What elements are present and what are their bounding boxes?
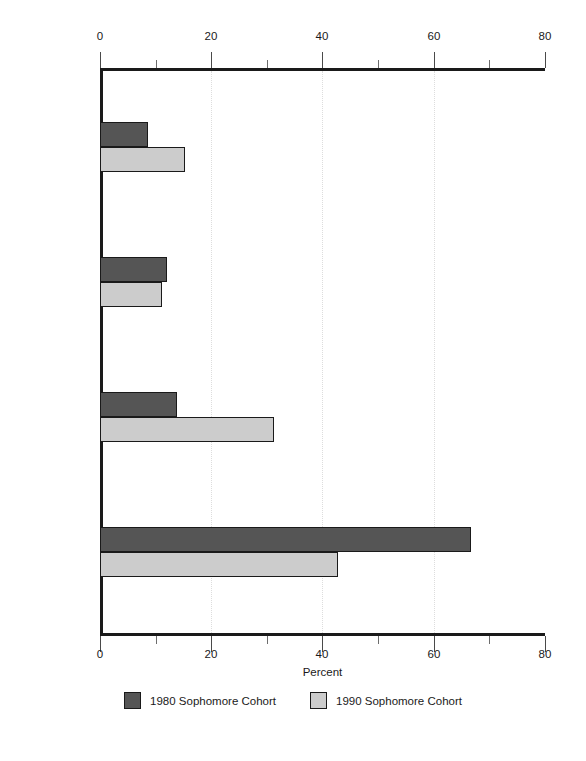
legend-entry-1990-sophomore-cohort: 1990 Sophomore Cohort bbox=[310, 692, 462, 709]
bar-graduated-1980 bbox=[100, 122, 148, 147]
legend-swatch-icon-1990 bbox=[310, 692, 327, 709]
legend-label-1980: 1980 Sophomore Cohort bbox=[150, 695, 276, 707]
top-tick-label-20: 20 bbox=[191, 30, 231, 43]
bar-received-alternative-credential-1980 bbox=[100, 257, 167, 282]
bottom-tick-minor-50 bbox=[378, 636, 379, 644]
top-tick-minor-30 bbox=[267, 60, 268, 68]
top-tick-label-80: 80 bbox=[525, 30, 565, 43]
bottom-tick-minor-10 bbox=[156, 636, 157, 644]
bottom-tick-label-0: 0 bbox=[80, 648, 120, 661]
bottom-tick-label-60: 60 bbox=[414, 648, 454, 661]
top-tick-label-0: 0 bbox=[80, 30, 120, 43]
bar-graduated-1990 bbox=[100, 147, 185, 172]
bottom-tick-label-40: 40 bbox=[302, 648, 342, 661]
bottom-tick-minor-30 bbox=[267, 636, 268, 644]
top-tick-minor-10 bbox=[156, 60, 157, 68]
top-tick-major-20 bbox=[211, 52, 212, 68]
bar-still-dropouts-1990 bbox=[100, 552, 338, 577]
top-tick-label-40: 40 bbox=[302, 30, 342, 43]
top-tick-major-40 bbox=[322, 52, 323, 68]
bar-enrolled-in-high-school-1990 bbox=[100, 417, 274, 442]
bar-still-dropouts-1980 bbox=[100, 527, 471, 552]
top-tick-minor-50 bbox=[378, 60, 379, 68]
legend-entry-1980-sophomore-cohort: 1980 Sophomore Cohort bbox=[124, 692, 276, 709]
bottom-tick-label-20: 20 bbox=[191, 648, 231, 661]
legend-swatch-icon-1980 bbox=[124, 692, 141, 709]
legend-label-1990: 1990 Sophomore Cohort bbox=[336, 695, 462, 707]
chart-legend: 1980 Sophomore Cohort 1990 Sophomore Coh… bbox=[0, 692, 586, 709]
top-tick-major-80 bbox=[545, 52, 546, 68]
plot-area bbox=[100, 68, 545, 636]
top-tick-label-60: 60 bbox=[414, 30, 454, 43]
bar-enrolled-in-high-school-1980 bbox=[100, 392, 177, 417]
top-tick-major-0 bbox=[100, 52, 101, 68]
bar-received-alternative-credential-1990 bbox=[100, 282, 162, 307]
x-axis-title: Percent bbox=[100, 666, 545, 678]
top-tick-major-60 bbox=[434, 52, 435, 68]
top-tick-minor-70 bbox=[489, 60, 490, 68]
bottom-tick-label-80: 80 bbox=[525, 648, 565, 661]
bottom-tick-minor-70 bbox=[489, 636, 490, 644]
horizontal-grouped-bar-chart: 0 20 40 60 80 bbox=[0, 0, 586, 761]
